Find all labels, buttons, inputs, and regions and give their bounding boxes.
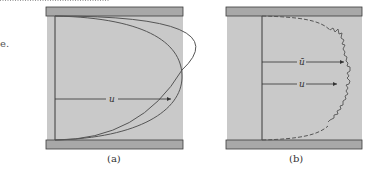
bottom-plate	[226, 140, 362, 149]
bottom-plate	[46, 140, 183, 149]
flow-profile-diagram: u ū u	[0, 0, 376, 169]
top-plate	[226, 7, 362, 16]
instantaneous-velocity-label-u: u	[299, 79, 305, 89]
mean-velocity-label-ubar: ū	[299, 57, 305, 67]
caption-a: (a)	[107, 153, 121, 164]
panel-b-turbulent: ū u	[226, 7, 362, 149]
velocity-label-u: u	[109, 94, 115, 104]
caption-b: (b)	[289, 153, 303, 164]
top-plate	[46, 7, 183, 16]
panel-a-laminar: u	[46, 7, 196, 149]
fluid-region	[47, 16, 183, 140]
